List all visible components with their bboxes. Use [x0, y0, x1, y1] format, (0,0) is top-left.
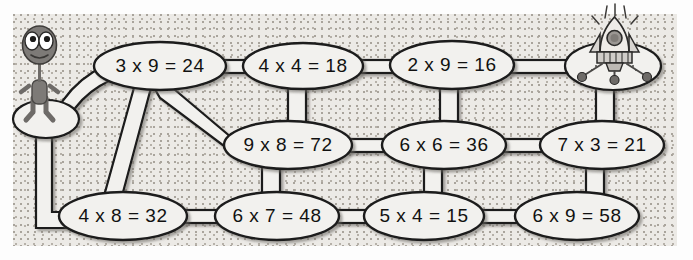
corridor-n1-to-n7 [104, 84, 152, 196]
node-oval-6x6[interactable] [382, 121, 506, 169]
rocket-fin-left [590, 34, 600, 52]
node-oval-9x8[interactable] [224, 121, 352, 169]
corridor-n9-n10 [480, 210, 518, 223]
rocket-foot-center [610, 76, 619, 85]
node-oval-3x9[interactable] [94, 42, 226, 90]
corridor-n1-to-n4 [152, 84, 232, 152]
node-oval-4x8[interactable] [59, 192, 187, 240]
node-oval-4x4[interactable] [243, 43, 363, 89]
rocket-foot-left [578, 73, 587, 82]
corridor-n3-goalpad [508, 60, 570, 73]
node-oval-5x4[interactable] [364, 192, 484, 240]
alien-pupil-right [44, 36, 50, 42]
node-oval-6x9[interactable] [515, 192, 639, 240]
alien-body [32, 80, 47, 104]
rocket-porthole-inner [611, 34, 619, 42]
alien-pupil-left [30, 36, 36, 42]
rocket-foot-right [643, 73, 652, 82]
node-oval-2x9[interactable] [390, 41, 514, 89]
rocket-fin-right [629, 34, 639, 52]
puzzle-page: 3 x 9 = 24 4 x 4 = 18 2 x 9 = 16 9 x 8 =… [0, 0, 693, 260]
maze-graphic [0, 0, 693, 260]
node-oval-7x3[interactable] [540, 121, 664, 169]
rocket-nozzle [606, 63, 623, 71]
node-oval-6x7[interactable] [215, 192, 339, 240]
rocket-engine-band [597, 52, 632, 63]
